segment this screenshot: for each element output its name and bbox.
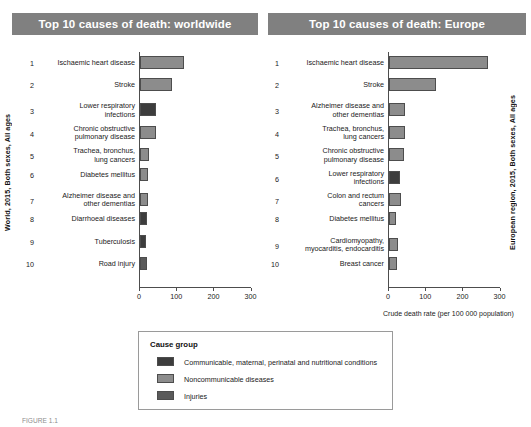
category-label: Stroke xyxy=(34,81,135,90)
figure-caption: FIGURE 1.1 xyxy=(22,417,58,424)
x-axis-tick xyxy=(500,288,501,291)
category-label: Stroke xyxy=(277,81,384,90)
x-axis-tick-label: 200 xyxy=(201,292,225,301)
category-label: Ischaemic heart disease xyxy=(277,59,384,68)
x-axis-tick xyxy=(213,288,214,291)
bar xyxy=(389,103,405,116)
legend: Cause group Communicable, maternal, peri… xyxy=(138,331,393,410)
bar xyxy=(389,193,401,206)
category-label: Tuberculosis xyxy=(34,238,135,247)
bar xyxy=(389,238,398,251)
plot-area-europe: 01002003001Ischaemic heart disease2Strok… xyxy=(265,52,531,288)
bar xyxy=(389,148,404,161)
x-axis-tick xyxy=(388,288,389,291)
bar xyxy=(140,126,156,139)
x-axis-tick-label: 0 xyxy=(376,292,400,301)
rank-number: 2 xyxy=(20,81,34,90)
bar xyxy=(140,193,148,206)
category-label: Trachea, bronchus, lung cancers xyxy=(34,147,135,164)
legend-label: Injuries xyxy=(184,392,207,401)
bar xyxy=(140,103,156,116)
rank-number: 7 xyxy=(20,197,34,206)
x-axis-tick xyxy=(462,288,463,291)
legend-label: Communicable, maternal, perinatal and nu… xyxy=(184,358,377,367)
category-label: Chronic obstructive pulmonary disease xyxy=(277,147,384,164)
rank-number: 6 xyxy=(20,171,34,180)
rank-number: 9 xyxy=(20,238,34,247)
plot-area-worldwide: 01002003001Ischaemic heart disease2Strok… xyxy=(0,52,265,288)
rank-number: 4 xyxy=(20,130,34,139)
rank-number: 10 xyxy=(20,260,34,269)
category-label: Breast cancer xyxy=(277,260,384,269)
category-label: Cardiomyopathy, myocarditis, endocarditi… xyxy=(277,237,384,254)
bar xyxy=(140,212,147,225)
legend-label: Noncommunicable diseases xyxy=(184,375,274,384)
category-label: Alzheimer disease and other dementias xyxy=(277,102,384,119)
legend-title: Cause group xyxy=(150,340,198,349)
rank-number: 1 xyxy=(20,59,34,68)
category-label: Diarrhoeal diseases xyxy=(34,215,135,224)
x-axis-tick xyxy=(139,288,140,291)
x-axis-tick xyxy=(176,288,177,291)
bar xyxy=(389,212,396,225)
bar xyxy=(140,168,148,181)
category-label: Alzheimer disease and other dementias xyxy=(34,192,135,209)
x-axis-tick-label: 300 xyxy=(488,292,512,301)
x-axis-line xyxy=(139,287,251,288)
rank-number: 3 xyxy=(20,107,34,116)
bar xyxy=(140,56,184,69)
x-axis-tick-label: 200 xyxy=(450,292,474,301)
bar xyxy=(389,126,405,139)
bar xyxy=(140,257,147,270)
category-label: Road injury xyxy=(34,260,135,269)
x-axis-tick-label: 100 xyxy=(164,292,188,301)
bar xyxy=(389,171,400,184)
bar xyxy=(140,78,172,91)
x-axis-tick-label: 300 xyxy=(239,292,263,301)
bar xyxy=(140,235,146,248)
x-axis-tick xyxy=(251,288,252,291)
legend-swatch xyxy=(157,357,174,366)
chart-title-worldwide: Top 10 causes of death: worldwide xyxy=(12,13,258,35)
rank-number: 8 xyxy=(20,215,34,224)
category-label: Chronic obstructive pulmonary disease xyxy=(34,125,135,142)
category-label: Ischaemic heart disease xyxy=(34,59,135,68)
x-axis-tick-label: 100 xyxy=(413,292,437,301)
bar xyxy=(389,78,436,91)
category-label: Diabetes mellitus xyxy=(34,171,135,180)
legend-swatch xyxy=(157,374,174,383)
x-axis-tick-label: 0 xyxy=(127,292,151,301)
legend-swatch xyxy=(157,391,174,400)
x-axis-label-europe: Crude death rate (per 100 000 population… xyxy=(383,310,514,317)
category-label: Diabetes mellitus xyxy=(277,215,384,224)
x-axis-tick xyxy=(425,288,426,291)
category-label: Colon and rectum cancers xyxy=(277,192,384,209)
category-label: Lower respiratory infections xyxy=(277,170,384,187)
chart-title-europe: Top 10 causes of death: Europe xyxy=(268,13,526,35)
x-axis-line xyxy=(388,287,500,288)
bar xyxy=(389,56,488,69)
bar xyxy=(140,148,149,161)
category-label: Lower respiratory infections xyxy=(34,102,135,119)
bar xyxy=(389,257,397,270)
category-label: Trachea, bronchus, lung cancers xyxy=(277,125,384,142)
rank-number: 5 xyxy=(20,152,34,161)
